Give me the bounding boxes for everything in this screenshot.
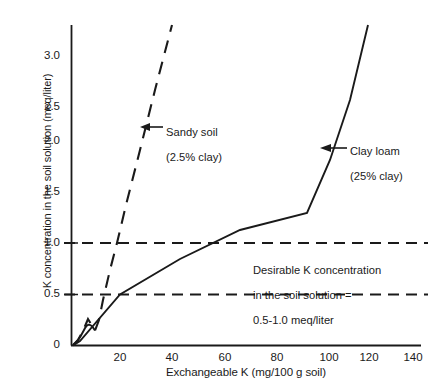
sandy-soil-annotation: Sandy soil (2.5% clay) [166,113,222,176]
sandy-soil-curve [73,25,172,345]
clay-loam-arrowhead-icon [320,144,331,152]
y-tick-label-2-5: 2.5 [26,100,60,112]
sandy-soil-annotation-line2: (2.5% clay) [166,151,222,164]
x-tick-label-20: 20 [102,351,138,363]
clay-loam-annotation-line1: Clay loam [350,145,403,158]
desirable-range-line2: in the soil solution = [253,289,381,302]
desirable-range-annotation: Desirable K concentration in the soil so… [253,251,381,339]
clay-loam-annotation-line2: (25% clay) [350,170,403,183]
x-tick-label-60: 60 [207,351,243,363]
sandy-soil-annotation-line1: Sandy soil [166,126,222,139]
desirable-range-line1: Desirable K concentration [253,264,381,277]
chart-figure: K concentration in the soil solution (me… [0,0,439,390]
desirable-range-line3: 0.5-1.0 meq/liter [253,314,381,327]
x-tick-label-100: 100 [311,351,347,363]
y-tick-label-1-0: 1.0 [26,236,60,248]
x-tick-label-140: 140 [395,351,431,363]
y-tick-label-0: 0 [26,338,60,350]
x-tick-label-120: 120 [351,351,387,363]
x-tick-label-80: 80 [259,351,295,363]
clay-loam-annotation: Clay loam (25% clay) [350,132,403,195]
y-tick-label-0-5: 0.5 [26,287,60,299]
x-tick-label-40: 40 [154,351,190,363]
y-tick-label-1-5: 1.5 [26,185,60,197]
y-tick-label-3-0: 3.0 [26,49,60,61]
x-axis-title: Exchangeable K (mg/100 g soil) [70,366,422,378]
y-tick-label-2-0: 2.0 [26,134,60,146]
